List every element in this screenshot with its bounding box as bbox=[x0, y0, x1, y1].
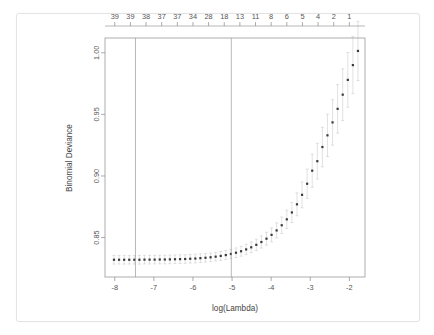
top-tick-label: 4 bbox=[316, 12, 320, 21]
x-tick-label: -2 bbox=[346, 283, 353, 292]
data-point bbox=[215, 256, 217, 258]
y-tick-label: 0.85 bbox=[92, 230, 101, 244]
top-tick-label: 38 bbox=[142, 12, 150, 21]
top-axis-ticks: 39393837373428181311865421 bbox=[105, 12, 365, 26]
plot-frame bbox=[105, 38, 365, 277]
chart-svg: -8-7-6-5-4-3-2 0.850.900.951.00 39393837… bbox=[0, 0, 434, 335]
data-point bbox=[270, 234, 272, 236]
data-point bbox=[342, 94, 344, 96]
top-tick-label: 39 bbox=[126, 12, 134, 21]
x-tick-label: -8 bbox=[111, 283, 118, 292]
top-tick-label: 8 bbox=[269, 12, 273, 21]
top-tick-label: 37 bbox=[173, 12, 181, 21]
data-point bbox=[118, 259, 120, 261]
data-point bbox=[209, 256, 211, 258]
data-point bbox=[148, 259, 150, 261]
data-point bbox=[194, 257, 196, 259]
top-tick-label: 6 bbox=[285, 12, 289, 21]
data-point bbox=[128, 259, 130, 261]
data-point bbox=[255, 244, 257, 246]
top-tick-label: 34 bbox=[189, 12, 197, 21]
data-point bbox=[260, 241, 262, 243]
y-tick-label: 0.90 bbox=[92, 169, 101, 183]
data-point bbox=[154, 259, 156, 261]
data-point bbox=[143, 259, 145, 261]
data-point bbox=[276, 229, 278, 231]
data-point bbox=[301, 194, 303, 196]
data-point bbox=[357, 50, 359, 52]
x-tick-label: -5 bbox=[229, 283, 236, 292]
data-point bbox=[286, 218, 288, 220]
top-tick-label: 13 bbox=[236, 12, 244, 21]
data-point bbox=[169, 258, 171, 260]
data-point bbox=[179, 258, 181, 260]
y-tick-label: 0.95 bbox=[92, 107, 101, 121]
data-point bbox=[133, 259, 135, 261]
x-axis-ticks: -8-7-6-5-4-3-2 bbox=[111, 277, 352, 292]
top-tick-label: 1 bbox=[347, 12, 351, 21]
data-point bbox=[245, 248, 247, 250]
data-point bbox=[164, 258, 166, 260]
top-tick-label: 28 bbox=[204, 12, 212, 21]
data-point bbox=[337, 108, 339, 110]
x-tick-label: -3 bbox=[307, 283, 314, 292]
data-point bbox=[331, 121, 333, 123]
data-point bbox=[159, 258, 161, 260]
data-point bbox=[138, 259, 140, 261]
data-point bbox=[306, 183, 308, 185]
cv-glmnet-chart: -8-7-6-5-4-3-2 0.850.900.951.00 39393837… bbox=[0, 0, 434, 335]
x-tick-label: -6 bbox=[190, 283, 197, 292]
data-point bbox=[230, 253, 232, 255]
top-tick-label: 11 bbox=[252, 12, 260, 21]
top-tick-label: 18 bbox=[220, 12, 228, 21]
data-point bbox=[184, 258, 186, 260]
data-point bbox=[316, 160, 318, 162]
data-point bbox=[204, 257, 206, 259]
x-tick-label: -4 bbox=[268, 283, 275, 292]
data-point bbox=[265, 238, 267, 240]
y-tick-label: 1.00 bbox=[92, 46, 101, 60]
data-point bbox=[199, 257, 201, 259]
data-point bbox=[250, 246, 252, 248]
errorbar-group bbox=[112, 21, 359, 264]
data-point bbox=[189, 258, 191, 260]
data-point bbox=[321, 146, 323, 148]
data-point bbox=[123, 259, 125, 261]
data-point bbox=[296, 203, 298, 205]
data-point bbox=[311, 170, 313, 172]
top-tick-label: 37 bbox=[158, 12, 166, 21]
x-tick-label: -7 bbox=[151, 283, 158, 292]
data-point bbox=[225, 254, 227, 256]
data-point bbox=[220, 255, 222, 257]
data-point bbox=[326, 134, 328, 136]
data-point bbox=[235, 252, 237, 254]
data-point bbox=[174, 258, 176, 260]
data-point bbox=[352, 64, 354, 66]
data-point bbox=[113, 259, 115, 261]
top-tick-label: 39 bbox=[111, 12, 119, 21]
data-point bbox=[281, 224, 283, 226]
data-point bbox=[347, 79, 349, 81]
vertical-reference-lines bbox=[135, 38, 231, 277]
x-axis-title: log(Lambda) bbox=[212, 304, 258, 313]
data-point bbox=[240, 250, 242, 252]
y-axis-title: Binomial Deviance bbox=[65, 124, 74, 192]
plot-box bbox=[105, 38, 365, 277]
data-point bbox=[291, 211, 293, 213]
top-tick-label: 5 bbox=[300, 12, 304, 21]
y-axis-ticks: 0.850.900.951.00 bbox=[92, 46, 105, 245]
top-tick-label: 2 bbox=[332, 12, 336, 21]
